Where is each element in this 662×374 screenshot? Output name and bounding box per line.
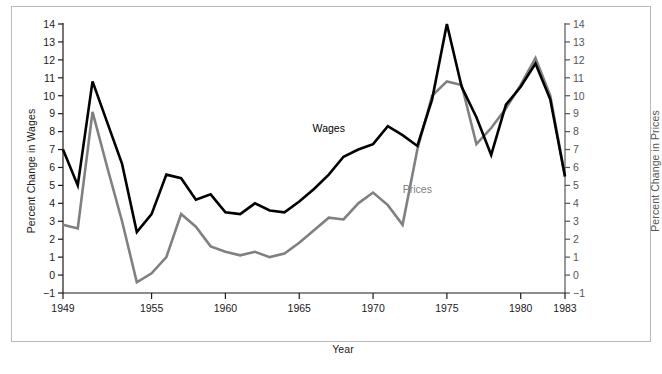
svg-text:0: 0 — [49, 269, 55, 281]
svg-text:0: 0 — [573, 269, 579, 281]
svg-text:Wages: Wages — [313, 122, 345, 134]
svg-text:−1: −1 — [43, 287, 55, 299]
svg-text:1960: 1960 — [214, 302, 238, 314]
svg-text:1955: 1955 — [140, 302, 164, 314]
svg-text:1: 1 — [573, 251, 579, 263]
svg-text:1: 1 — [49, 251, 55, 263]
svg-text:1970: 1970 — [361, 302, 385, 314]
svg-text:3: 3 — [49, 215, 55, 227]
line-chart-plot: −101234567891011121314−10123456789101112… — [12, 7, 650, 341]
svg-text:1980: 1980 — [509, 302, 533, 314]
svg-text:10: 10 — [43, 90, 55, 102]
svg-text:8: 8 — [49, 125, 55, 137]
svg-text:6: 6 — [573, 161, 579, 173]
chart-figure: −101234567891011121314−10123456789101112… — [0, 0, 662, 374]
x-axis-label: Year — [12, 343, 662, 355]
svg-text:6: 6 — [49, 161, 55, 173]
svg-text:13: 13 — [573, 36, 585, 48]
svg-text:7: 7 — [49, 143, 55, 155]
svg-text:Prices: Prices — [403, 183, 432, 195]
svg-text:1983: 1983 — [553, 302, 577, 314]
svg-text:1965: 1965 — [288, 302, 312, 314]
svg-text:3: 3 — [573, 215, 579, 227]
svg-text:14: 14 — [573, 18, 585, 30]
svg-text:14: 14 — [43, 18, 55, 30]
y-axis-label-right: Percent Change in Prices — [649, 81, 661, 261]
svg-text:12: 12 — [43, 54, 55, 66]
svg-text:11: 11 — [573, 72, 584, 84]
svg-text:10: 10 — [573, 90, 585, 102]
svg-text:4: 4 — [573, 197, 579, 209]
svg-text:9: 9 — [573, 107, 579, 119]
svg-text:4: 4 — [49, 197, 55, 209]
svg-text:1949: 1949 — [51, 302, 75, 314]
svg-text:2: 2 — [573, 233, 579, 245]
caption-fragment — [12, 356, 212, 368]
svg-text:12: 12 — [573, 54, 585, 66]
svg-text:8: 8 — [573, 125, 579, 137]
svg-text:5: 5 — [49, 179, 55, 191]
y-axis-label-left: Percent Change in Wages — [25, 81, 37, 261]
svg-text:13: 13 — [43, 36, 55, 48]
svg-text:1975: 1975 — [435, 302, 459, 314]
svg-text:7: 7 — [573, 143, 579, 155]
svg-text:−1: −1 — [573, 287, 585, 299]
svg-text:9: 9 — [49, 107, 55, 119]
svg-text:2: 2 — [49, 233, 55, 245]
svg-text:11: 11 — [44, 72, 55, 84]
figure-frame: −101234567891011121314−10123456789101112… — [11, 6, 651, 342]
svg-text:5: 5 — [573, 179, 579, 191]
